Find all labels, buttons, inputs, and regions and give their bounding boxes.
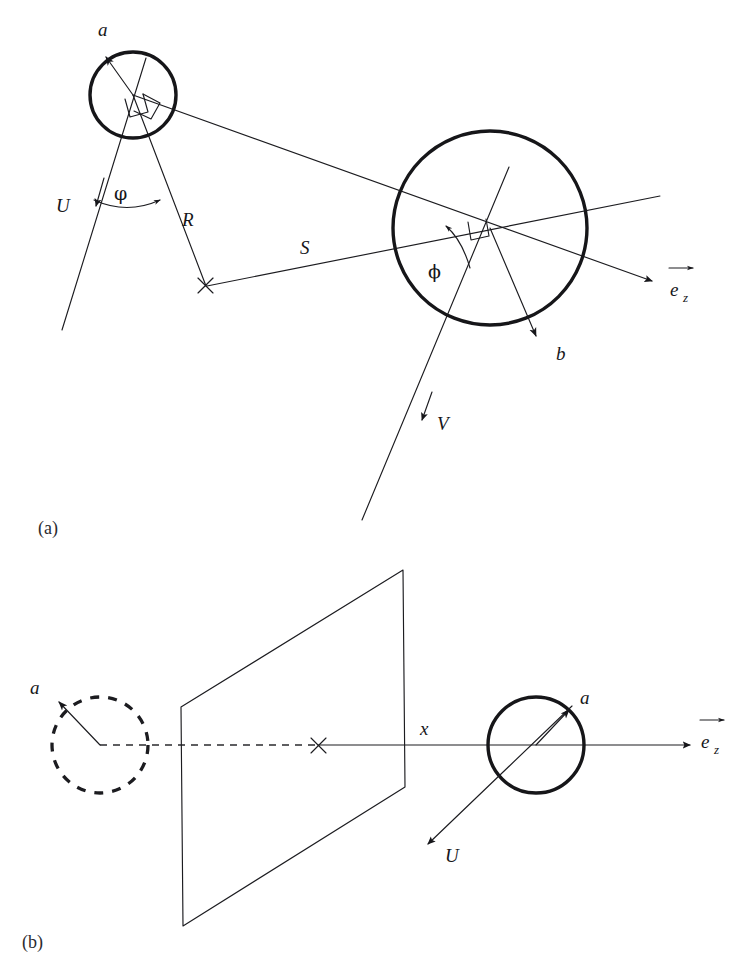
label-angle-phi-small: φ	[114, 182, 127, 204]
label-vector-U-a: U	[56, 195, 71, 216]
vector-a-right-arrow	[536, 710, 569, 745]
label-axis-x: x	[419, 718, 429, 739]
line-U-trajectory-b	[428, 706, 572, 844]
line-center-to-ez	[133, 95, 652, 281]
label-ez-base-b: e	[701, 731, 709, 752]
panel-a-group: a b U V R S φ ϕ e z (a)	[38, 19, 693, 539]
figure-page: a b U V R S φ ϕ e z (a)	[0, 0, 748, 977]
line-V-trajectory	[362, 167, 509, 520]
panel-caption-b: (b)	[22, 932, 43, 953]
panel-b-group: a a x U e z (b)	[22, 570, 724, 953]
figure-canvas: a b U V R S φ ϕ e z (a)	[0, 0, 748, 977]
panel-caption-a: (a)	[38, 518, 58, 539]
label-segment-R: R	[181, 209, 194, 230]
plane-parallelogram	[181, 570, 405, 926]
label-ez-subscript-a: z	[682, 290, 688, 305]
line-U-trajectory	[62, 58, 146, 330]
label-ez-subscript-b: z	[713, 742, 719, 757]
label-vector-a-right: a	[580, 687, 590, 708]
angle-phi-large-arc	[446, 226, 470, 268]
arrow-V-head	[422, 392, 432, 420]
label-vector-a-top: a	[98, 19, 108, 40]
label-vector-b: b	[556, 343, 566, 364]
label-vector-a-left: a	[30, 677, 40, 698]
label-angle-phi-large: ϕ	[428, 260, 441, 282]
vector-a-left-arrow	[59, 702, 100, 745]
label-segment-S: S	[300, 237, 310, 258]
label-vector-V: V	[437, 413, 451, 434]
segment-R-line	[133, 95, 206, 286]
label-vector-U-b: U	[445, 845, 460, 866]
vector-a-arrow	[106, 57, 133, 95]
label-ez-base-a: e	[670, 279, 678, 300]
vector-b-arrow	[490, 228, 536, 336]
